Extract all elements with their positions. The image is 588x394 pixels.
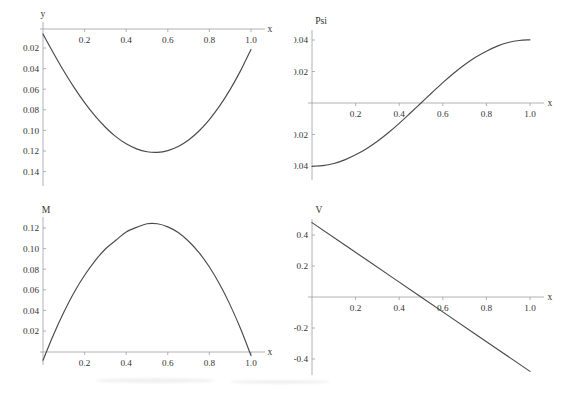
deflection-ytick-1: 0.04 (23, 64, 39, 74)
slope-xtick-3: 0.8 (481, 109, 493, 119)
four-panel-plot-figure: 0.2 0.4 0.6 0.8 1.0 0.02 0.04 0.06 0.08 … (0, 0, 588, 394)
scan-artifact-2 (230, 380, 330, 384)
shear-x-axis-label: x (548, 291, 553, 302)
moment-xtick-0: 0.2 (79, 358, 91, 368)
moment-y-ticks (43, 228, 46, 331)
moment-plot-svg: 0.2 0.4 0.6 0.8 1.0 0.02 0.04 0.06 0.08 … (0, 197, 294, 394)
shear-xtick-3: 0.8 (481, 303, 493, 313)
slope-x-ticks (356, 103, 530, 106)
moment-xtick-3: 0.8 (204, 358, 216, 368)
shear-ytick-3: 0.4 (297, 230, 309, 240)
deflection-ytick-5: 0.12 (23, 146, 39, 156)
deflection-ytick-0: 0.02 (23, 43, 39, 53)
moment-curve (43, 223, 251, 360)
deflection-x-ticks (85, 29, 251, 32)
moment-ytick-0: 0.02 (23, 326, 39, 336)
moment-ytick-2: 0.06 (23, 285, 39, 295)
slope-ytick-2: 0.02 (294, 67, 308, 77)
shear-xtick-0: 0.2 (350, 303, 362, 313)
moment-x-ticks (85, 352, 251, 355)
slope-ytick-3: 0.04 (294, 35, 308, 45)
deflection-ytick-3: 0.08 (23, 105, 39, 115)
moment-xtick-2: 0.6 (162, 358, 174, 368)
panel-shear: 0.2 0.4 0.6 0.8 1.0 -0.4 -0.2 0.2 0.4 V … (294, 197, 588, 394)
deflection-x-axis-label: x (268, 23, 273, 34)
moment-ytick-3: 0.08 (23, 265, 39, 275)
slope-ytick-1: -0.02 (294, 130, 308, 140)
moment-ytick-1: 0.04 (23, 306, 39, 316)
slope-ytick-0: -0.04 (294, 161, 308, 171)
moment-xtick-4: 1.0 (245, 358, 257, 368)
slope-xtick-1: 0.4 (393, 109, 405, 119)
shear-plot-svg: 0.2 0.4 0.6 0.8 1.0 -0.4 -0.2 0.2 0.4 V … (294, 197, 588, 394)
deflection-xtick-0: 0.2 (79, 35, 91, 45)
panel-deflection: 0.2 0.4 0.6 0.8 1.0 0.02 0.04 0.06 0.08 … (0, 0, 294, 197)
deflection-xtick-4: 1.0 (245, 35, 257, 45)
shear-xtick-4: 1.0 (524, 303, 536, 313)
deflection-curve (43, 34, 251, 152)
slope-xtick-4: 1.0 (524, 109, 536, 119)
shear-ytick-0: -0.4 (294, 354, 308, 364)
slope-x-axis-label: x (548, 97, 553, 108)
shear-y-axis-label: V (316, 204, 323, 215)
panel-moment: 0.2 0.4 0.6 0.8 1.0 0.02 0.04 0.06 0.08 … (0, 197, 294, 394)
shear-x-ticks (356, 297, 530, 300)
moment-y-axis-label: M (42, 204, 51, 215)
deflection-xtick-1: 0.4 (120, 35, 132, 45)
slope-plot-svg: 0.2 0.4 0.6 0.8 1.0 -0.04 -0.02 0.02 0.0… (294, 0, 588, 197)
slope-xtick-0: 0.2 (350, 109, 362, 119)
moment-x-axis-label: x (268, 346, 273, 357)
deflection-y-ticks (43, 48, 46, 172)
shear-xtick-1: 0.4 (393, 303, 405, 313)
deflection-xtick-2: 0.6 (162, 35, 174, 45)
shear-ytick-2: 0.2 (297, 261, 309, 271)
shear-ytick-1: -0.2 (294, 323, 308, 333)
deflection-xtick-3: 0.8 (204, 35, 216, 45)
moment-ytick-5: 0.12 (23, 223, 39, 233)
panel-slope: 0.2 0.4 0.6 0.8 1.0 -0.04 -0.02 0.02 0.0… (294, 0, 588, 197)
slope-y-axis-label: Psi (315, 15, 327, 26)
slope-xtick-2: 0.6 (437, 109, 449, 119)
deflection-ytick-6: 0.14 (23, 167, 39, 177)
scan-artifact-1 (95, 378, 215, 383)
deflection-ytick-4: 0.10 (23, 126, 39, 136)
moment-xtick-1: 0.4 (120, 358, 132, 368)
deflection-ytick-2: 0.06 (23, 85, 39, 95)
deflection-plot-svg: 0.2 0.4 0.6 0.8 1.0 0.02 0.04 0.06 0.08 … (0, 0, 294, 197)
deflection-y-axis-label: y (41, 8, 46, 19)
moment-ytick-4: 0.10 (23, 244, 39, 254)
